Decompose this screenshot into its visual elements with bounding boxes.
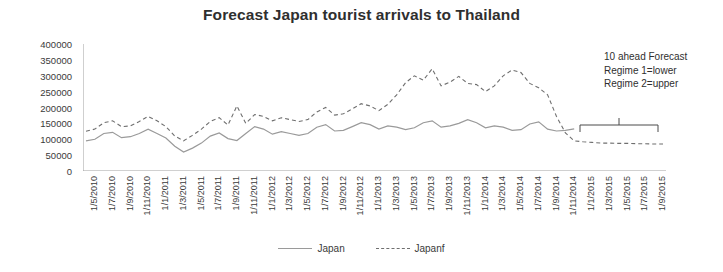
x-tick-label: 1/9/2013 [445, 176, 454, 211]
x-tick-label: 1/11/2013 [463, 176, 472, 215]
y-tick-label: 350000 [0, 56, 72, 65]
x-tick-label: 1/7/2013 [427, 176, 436, 211]
series-line-japan [86, 120, 574, 152]
series-line-japanf [86, 69, 663, 144]
x-tick-label: 1/3/2014 [498, 176, 507, 211]
annotation-line-2: Regime 1=lower [604, 64, 720, 78]
legend-item-japan: Japan [278, 243, 344, 254]
x-tick-label: 1/5/2014 [516, 176, 525, 211]
y-tick-label: 100000 [0, 135, 72, 144]
x-tick-label: 1/3/2012 [285, 176, 294, 211]
x-tick-label: 1/1/2013 [374, 176, 383, 211]
y-tick-label: 300000 [0, 72, 72, 81]
legend-swatch-dashed-icon [376, 248, 410, 249]
x-tick-label: 1/9/2012 [339, 176, 348, 211]
y-tick-label: 200000 [0, 104, 72, 113]
annotation-line-1: 10 ahead Forecast [604, 50, 720, 64]
x-tick-label: 1/1/2014 [481, 176, 490, 211]
x-tick-label: 1/5/2011 [197, 176, 206, 210]
x-tick-label: 1/3/2015 [605, 176, 614, 211]
x-tick-label: 1/11/2014 [569, 176, 578, 215]
x-tick-label: 1/5/2013 [410, 176, 419, 211]
y-tick-label: 0 [0, 167, 72, 176]
y-tick-label: 150000 [0, 119, 72, 128]
legend-label-japanf: Japanf [415, 243, 445, 254]
annotation-line-3: Regime 2=upper [604, 77, 720, 91]
x-tick-label: 1/9/2011 [232, 176, 241, 210]
chart-legend: Japan Japanf [0, 243, 723, 254]
forecast-brace [580, 118, 658, 132]
x-tick-label: 1/1/2012 [268, 176, 277, 211]
x-tick-label: 1/11/2011 [250, 176, 259, 215]
x-tick-label: 1/3/2013 [392, 176, 401, 211]
x-tick-label: 1/5/2012 [303, 176, 312, 211]
x-axis-tick-labels: 1/5/20101/7/20101/9/20101/11/20101/1/201… [83, 176, 666, 246]
x-tick-label: 1/7/2010 [108, 176, 117, 211]
x-tick-label: 1/1/2011 [161, 176, 170, 210]
x-tick-label: 1/7/2011 [214, 176, 223, 210]
chart-svg [83, 44, 666, 171]
y-tick-label: 400000 [0, 40, 72, 49]
plot-area [83, 44, 666, 171]
x-tick-label: 1/9/2014 [552, 176, 561, 211]
y-tick-label: 50000 [0, 151, 72, 160]
x-tick-label: 1/11/2012 [356, 176, 365, 215]
legend-swatch-solid-icon [278, 248, 312, 249]
x-tick-label: 1/5/2015 [623, 176, 632, 211]
x-tick-label: 1/7/2015 [640, 176, 649, 211]
chart-title: Forecast Japan tourist arrivals to Thail… [0, 6, 723, 24]
y-tick-label: 250000 [0, 88, 72, 97]
chart-container: Forecast Japan tourist arrivals to Thail… [0, 0, 723, 272]
legend-label-japan: Japan [317, 243, 344, 254]
legend-item-japanf: Japanf [376, 243, 445, 254]
x-tick-label: 1/7/2012 [321, 176, 330, 211]
x-tick-label: 1/9/2010 [126, 176, 135, 211]
x-tick-label: 1/11/2010 [143, 176, 152, 215]
x-tick-label: 1/7/2014 [534, 176, 543, 211]
x-tick-label: 1/5/2010 [90, 176, 99, 211]
x-tick-label: 1/1/2015 [587, 176, 596, 211]
x-tick-label: 1/3/2011 [179, 176, 188, 210]
x-tick-label: 1/9/2015 [658, 176, 667, 211]
forecast-annotation: 10 ahead Forecast Regime 1=lower Regime … [604, 50, 720, 91]
